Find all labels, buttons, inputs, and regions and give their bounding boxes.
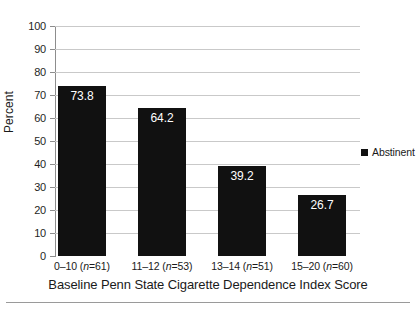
- y-tick-label-30: 30: [20, 182, 46, 193]
- legend-label-abstinent: Abstinent: [372, 147, 415, 158]
- y-tick-label-10: 10: [20, 228, 46, 239]
- bar-value-label: 39.2: [218, 170, 266, 183]
- bar: 26.7: [298, 195, 346, 256]
- bar-chart-figure: Percent 1009080706050403020100 73.864.23…: [0, 0, 416, 313]
- y-tick-label-60: 60: [20, 113, 46, 124]
- bar-value-label: 26.7: [298, 199, 346, 212]
- gridline-90: [55, 49, 360, 50]
- y-tick-label-100: 100: [20, 21, 46, 32]
- x-axis-title: Baseline Penn State Cigarette Dependence…: [0, 277, 416, 292]
- y-tick-label-20: 20: [20, 205, 46, 216]
- y-tick-label-40: 40: [20, 159, 46, 170]
- plot-area: 73.864.239.226.7: [55, 26, 360, 256]
- bar: 64.2: [138, 108, 186, 256]
- y-axis-title: Percent: [3, 57, 15, 167]
- x-category-label: 15–20 (n=60): [272, 260, 372, 272]
- bar-value-label: 73.8: [58, 90, 106, 103]
- gridline-100: [55, 26, 360, 27]
- gridline-80: [55, 72, 360, 73]
- bar: 73.8: [58, 86, 106, 256]
- y-tick-label-90: 90: [20, 44, 46, 55]
- y-tick-mark-0: [50, 256, 55, 257]
- legend-swatch-abstinent: [361, 149, 368, 156]
- bar: 39.2: [218, 166, 266, 256]
- bottom-divider: [6, 302, 410, 303]
- bar-value-label: 64.2: [138, 112, 186, 125]
- y-tick-label-80: 80: [20, 67, 46, 78]
- legend: Abstinent: [361, 147, 415, 158]
- y-tick-label-50: 50: [20, 136, 46, 147]
- y-tick-label-70: 70: [20, 90, 46, 101]
